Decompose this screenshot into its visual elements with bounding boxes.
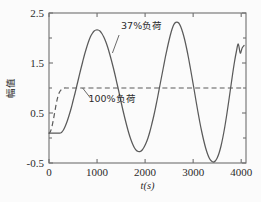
- data-series: [49, 22, 244, 162]
- x-tick-label: 2000: [134, 166, 157, 178]
- annotation-label: 100%负荷: [88, 93, 135, 104]
- series-37-percent-load: [49, 22, 244, 162]
- y-tick-label: 0.5: [30, 107, 44, 119]
- x-tick-label: 3000: [182, 166, 205, 178]
- y-tick-label: 1.5: [30, 57, 44, 69]
- x-axis-title: t(s): [141, 180, 156, 192]
- y-tick-label: -0.5: [27, 157, 45, 169]
- x-tick-label: 1000: [86, 166, 109, 178]
- annotation-leader: [112, 35, 119, 53]
- x-tick-label: 4000: [230, 166, 253, 178]
- chart-svg: 01000200030004000 -0.50.51.52.5 t(s) 幅值 …: [0, 0, 261, 202]
- y-axis-title: 幅值: [5, 78, 16, 98]
- chart-annotations: 37%负荷100%负荷: [83, 20, 163, 104]
- series-100-percent-load: [49, 88, 244, 134]
- y-tick-label: 2.5: [30, 7, 44, 19]
- x-axis-tick-labels: 01000200030004000: [46, 166, 252, 178]
- chart-figure: 01000200030004000 -0.50.51.52.5 t(s) 幅值 …: [0, 0, 261, 202]
- y-axis-tick-labels: -0.50.51.52.5: [27, 7, 45, 169]
- x-tick-label: 0: [46, 166, 52, 178]
- y-axis-title-text: 幅值: [5, 78, 16, 98]
- annotation-label: 37%负荷: [121, 20, 162, 31]
